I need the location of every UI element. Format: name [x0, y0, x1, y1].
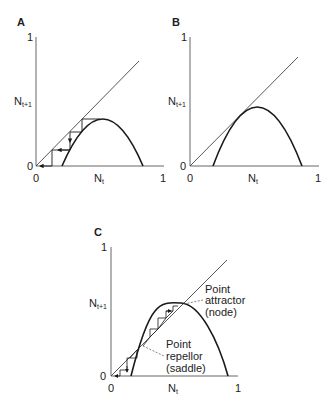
x-tick-0: 0	[187, 172, 193, 184]
svg-text:Point: Point	[166, 338, 191, 350]
attractor-annotation: Point attractor (node)	[205, 283, 246, 318]
panel-b: B 1 0 0 1 Nt+1 Nt	[168, 16, 321, 185]
repellor-annotation: Point repellor (saddle)	[166, 338, 206, 374]
y-tick-0: 0	[180, 160, 186, 172]
y-axis-label: Nt+1	[168, 95, 186, 108]
svg-text:(node): (node)	[205, 306, 237, 318]
x-axis-label: Nt	[248, 172, 258, 185]
y-axis-label: Nt+1	[14, 95, 32, 108]
svg-text:(saddle): (saddle)	[166, 362, 206, 374]
y-tick-1: 1	[27, 31, 33, 43]
x-tick-1: 1	[315, 172, 321, 184]
panel-label-a: A	[17, 16, 25, 28]
y-axis-label: Nt+1	[89, 297, 107, 310]
y-tick-0: 0	[100, 370, 106, 382]
x-tick-1: 1	[235, 382, 241, 394]
panel-c: C 1 0 0 1 Nt+1 Nt Poin	[89, 226, 246, 395]
panel-label-b: B	[172, 16, 180, 28]
x-tick-1: 1	[160, 172, 166, 184]
x-axis-label: Nt	[168, 382, 178, 395]
y-tick-1: 1	[181, 31, 187, 43]
x-tick-0: 0	[33, 172, 39, 184]
panel-a: A 1 0 0 1 Nt+1 Nt	[14, 16, 166, 185]
recruitment-curve	[213, 107, 302, 166]
population-dynamics-figure: A 1 0 0 1 Nt+1 Nt B 1 0 0 1 Nt	[0, 0, 333, 403]
x-tick-0: 0	[108, 382, 114, 394]
recruitment-curve	[62, 119, 143, 166]
y-tick-0: 0	[27, 160, 33, 172]
cobweb-path	[40, 119, 100, 166]
svg-text:repellor: repellor	[166, 350, 203, 362]
repellor-leader-line	[143, 346, 164, 356]
svg-text:attractor: attractor	[205, 294, 246, 306]
x-axis-label: Nt	[94, 172, 104, 185]
diagonal-line	[36, 61, 139, 166]
panel-label-c: C	[94, 226, 102, 238]
y-tick-1: 1	[101, 241, 107, 253]
